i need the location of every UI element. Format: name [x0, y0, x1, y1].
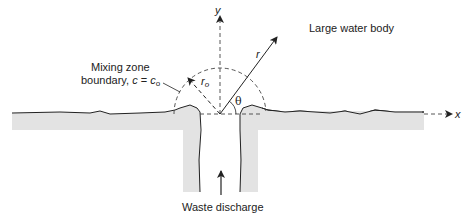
- right-shore: [240, 105, 424, 192]
- mixing-zone-label-line2: boundary, c = co: [81, 74, 161, 88]
- boundary-leader-line: [163, 83, 180, 92]
- large-water-body-label: Large water body: [309, 22, 394, 34]
- mixing-zone-diagram: Large water body Mixing zone boundary, c…: [0, 0, 471, 221]
- radius-r-label: r: [256, 48, 261, 60]
- x-axis-label: x: [454, 108, 461, 120]
- mixing-zone-label-line1: Mixing zone: [91, 61, 150, 73]
- radius-r0-label: ro: [201, 75, 210, 89]
- y-axis-label: y: [214, 4, 222, 16]
- left-shore: [12, 105, 201, 192]
- radius-r-arrow: [220, 37, 277, 114]
- angle-theta-label: θ: [235, 95, 242, 108]
- waste-discharge-label: Waste discharge: [182, 201, 264, 213]
